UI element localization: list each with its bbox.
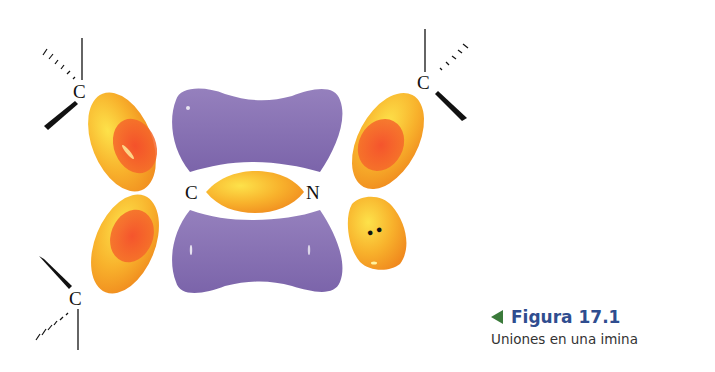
highlight (308, 245, 310, 255)
highlight (190, 245, 192, 255)
figure-title: Figura 17.1 (491, 306, 638, 328)
highlight (186, 106, 190, 110)
sigma-bond-c-n (206, 171, 304, 213)
bonds-top-right (425, 29, 468, 121)
sigma-orbital-top-left (75, 83, 170, 202)
figure-subtitle: Uniones en una imina (491, 331, 638, 347)
atom-label-n-center: N (306, 182, 320, 203)
atom-label-c-top-right: C (417, 72, 430, 93)
atom-label-c-bottom-left: C (69, 288, 82, 309)
pi-orbital-top (172, 89, 342, 172)
caption-arrow-icon (491, 310, 503, 324)
sigma-orbital-bottom-left (78, 185, 173, 304)
atom-label-c-top-left: C (73, 81, 86, 102)
atom-label-c-center: C (185, 182, 198, 203)
sigma-orbital-top-right (337, 81, 439, 201)
pi-orbital-bottom (172, 210, 342, 293)
figure-caption: Figura 17.1 Uniones en una imina (491, 306, 638, 347)
figure-number: Figura 17.1 (511, 306, 620, 328)
